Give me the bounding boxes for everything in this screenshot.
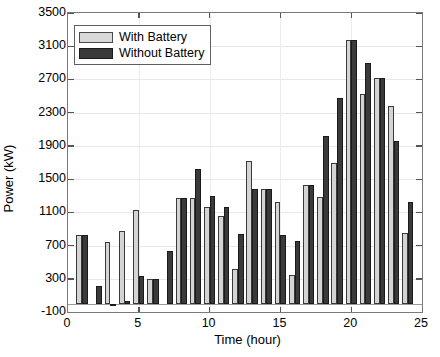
bar-without-battery-hour-2: [96, 286, 102, 303]
legend-swatch-without-battery: [79, 48, 113, 59]
y-axis-tick-mark: [416, 179, 422, 180]
y-axis-tick-mark: [68, 13, 74, 14]
bar-without-battery-hour-3: [110, 304, 116, 306]
y-axis-label: Power (kW): [0, 0, 18, 357]
bar-without-battery-hour-21: [365, 63, 371, 304]
y-axis-tick-label: 1500: [24, 172, 66, 184]
bar-without-battery-hour-9: [195, 169, 201, 304]
legend-item-without-battery: Without Battery: [79, 45, 204, 61]
x-axis-tick-mark: [138, 307, 139, 312]
y-axis-tick-label: 1900: [24, 139, 66, 151]
y-axis-tick-label: 1100: [24, 205, 66, 217]
y-axis-tick-mark: [416, 245, 422, 246]
y-axis-tick-mark: [68, 79, 74, 80]
bar-without-battery-hour-12: [238, 234, 244, 304]
x-axis-tick-label: 25: [406, 316, 436, 330]
bar-without-battery-hour-17: [309, 185, 315, 304]
bar-without-battery-hour-1: [82, 235, 88, 304]
bar-with-battery-hour-4: [119, 231, 125, 303]
y-axis-tick-mark: [416, 13, 422, 14]
y-axis-tick-label: 3100: [24, 39, 66, 51]
legend-label-with-battery: With Battery: [119, 31, 187, 44]
y-axis-tick-mark: [68, 145, 74, 146]
x-axis-tick-mark: [280, 13, 281, 18]
y-axis-tick-mark: [68, 312, 74, 313]
y-axis-tick-mark: [416, 212, 422, 213]
x-axis-tick-mark: [351, 13, 352, 18]
y-axis-tick-mark: [68, 112, 74, 113]
x-axis-tick-mark: [280, 307, 281, 312]
bar-without-battery-hour-6: [153, 279, 159, 304]
bar-without-battery-hour-8: [181, 198, 187, 303]
y-axis-tick-mark: [416, 112, 422, 113]
legend-item-with-battery: With Battery: [79, 29, 204, 45]
bar-without-battery-hour-14: [266, 189, 272, 304]
y-axis-tick-mark: [68, 179, 74, 180]
bar-without-battery-hour-16: [295, 241, 301, 304]
bar-without-battery-hour-18: [323, 136, 329, 304]
x-axis-label: Time (hour): [60, 332, 435, 347]
bar-without-battery-hour-10: [210, 196, 216, 304]
legend-swatch-with-battery: [79, 32, 113, 43]
y-axis-tick-label: 3500: [24, 6, 66, 18]
x-axis-tick-label: 15: [264, 316, 294, 330]
bar-without-battery-hour-15: [280, 235, 286, 304]
bar-without-battery-hour-5: [139, 276, 145, 303]
y-axis-tick-mark: [68, 245, 74, 246]
bar-without-battery-hour-23: [394, 141, 400, 304]
y-axis-tick-mark: [416, 278, 422, 279]
y-axis-tick-mark: [416, 145, 422, 146]
y-axis-tick-mark: [68, 212, 74, 213]
bar-without-battery-hour-24: [408, 202, 414, 303]
y-axis-tick-mark: [416, 312, 422, 313]
x-axis-tick-mark: [351, 307, 352, 312]
zero-baseline: [68, 304, 422, 305]
y-axis-tick-mark: [416, 79, 422, 80]
bar-without-battery-hour-19: [337, 98, 343, 304]
y-axis-tick-label: 2300: [24, 106, 66, 118]
x-axis-tick-label: 0: [52, 316, 82, 330]
chart-figure: Power (kW) Time (hour) With Battery With…: [0, 0, 440, 357]
bar-with-battery-hour-3: [105, 242, 111, 303]
legend-label-without-battery: Without Battery: [119, 47, 204, 60]
chart-legend: With Battery Without Battery: [74, 25, 211, 65]
y-axis-tick-mark: [416, 46, 422, 47]
x-axis-tick-label: 20: [335, 316, 365, 330]
x-axis-tick-mark: [209, 13, 210, 18]
bar-without-battery-hour-11: [224, 207, 230, 303]
bar-without-battery-hour-22: [380, 78, 386, 304]
x-axis-tick-mark: [138, 13, 139, 18]
y-axis-tick-mark: [68, 278, 74, 279]
bar-without-battery-hour-4: [125, 301, 131, 303]
bar-without-battery-hour-7: [167, 251, 173, 304]
y-axis-tick-label: 700: [24, 239, 66, 251]
bar-without-battery-hour-13: [252, 189, 258, 304]
x-axis-tick-label: 10: [194, 316, 224, 330]
bar-without-battery-hour-20: [351, 40, 357, 304]
x-axis-tick-mark: [209, 307, 210, 312]
y-axis-tick-label: 2700: [24, 72, 66, 84]
x-axis-tick-label: 5: [123, 316, 153, 330]
y-axis-tick-label: 300: [24, 272, 66, 284]
